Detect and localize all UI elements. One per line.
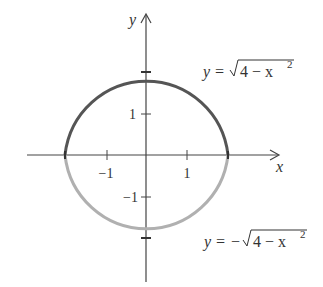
lower-eq-radicand: 4 − x <box>253 233 286 250</box>
x-axis-label: x <box>275 158 283 175</box>
tick-label-y-pos1: 1 <box>129 107 136 122</box>
lower-eq-lhs: y = − <box>202 233 241 251</box>
upper-equation: y = 4 − x 2 <box>201 58 294 81</box>
lower-eq-exponent: 2 <box>300 228 306 240</box>
upper-eq-lhs: y = <box>201 63 225 81</box>
lower-equation: y = − 4 − x 2 <box>202 228 307 251</box>
circle-plot: −1 1 1 −1 x y y = 4 − x 2 y = − 4 − x 2 <box>0 0 323 287</box>
tick-label-x-pos1: 1 <box>184 166 191 181</box>
y-axis-label: y <box>127 11 137 29</box>
tick-label-x-neg1: −1 <box>99 166 114 181</box>
upper-eq-exponent: 2 <box>287 58 293 70</box>
upper-eq-radicand: 4 − x <box>240 63 273 80</box>
tick-label-y-neg1: −1 <box>123 190 138 205</box>
